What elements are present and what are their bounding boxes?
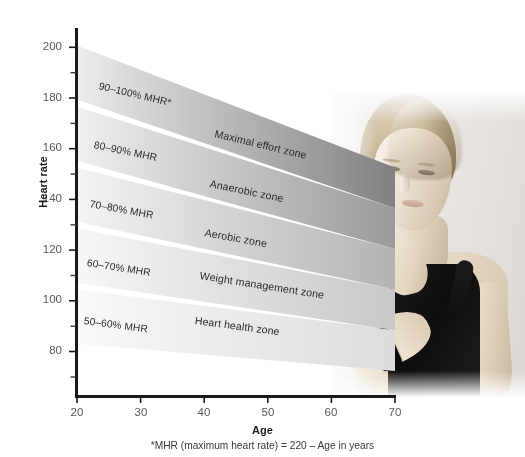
y-tick-label-120: 120: [32, 243, 62, 255]
zone-bands-plot: 90–100% MHR* 80–90% MHR 70–80% MHR 60–70…: [77, 32, 395, 398]
x-tick-label-60: 60: [318, 406, 344, 418]
x-tick-label-70: 70: [382, 406, 408, 418]
x-tick-label-50: 50: [255, 406, 281, 418]
x-tick-label-20: 20: [64, 406, 90, 418]
mhr-footnote: *MHR (maximum heart rate) = 220 – Age in…: [0, 440, 525, 451]
y-tick-label-180: 180: [32, 91, 62, 103]
y-axis-title: Heart rate: [37, 156, 49, 207]
y-tick-label-100: 100: [32, 293, 62, 305]
x-tick-label-40: 40: [191, 406, 217, 418]
heart-rate-zones-figure: 90–100% MHR* 80–90% MHR 70–80% MHR 60–70…: [0, 0, 525, 457]
y-tick-label-160: 160: [32, 141, 62, 153]
y-tick-label-80: 80: [32, 344, 62, 356]
x-axis-title: Age: [0, 424, 525, 436]
x-tick-label-30: 30: [128, 406, 154, 418]
y-tick-label-200: 200: [32, 40, 62, 52]
